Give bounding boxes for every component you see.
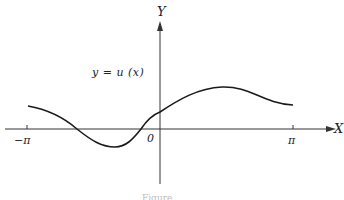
tick-label-neg-pi: −π [14,134,30,147]
curve-label: y = u (x) [92,66,144,79]
plot-area [0,0,344,200]
x-axis-label: X [334,121,343,136]
origin-label: 0 [147,132,154,145]
y-axis-arrow-icon [157,21,163,31]
figure-caption: Figure [142,193,172,200]
tick-label-pi: π [288,134,295,147]
y-axis-label: Y [157,4,166,19]
